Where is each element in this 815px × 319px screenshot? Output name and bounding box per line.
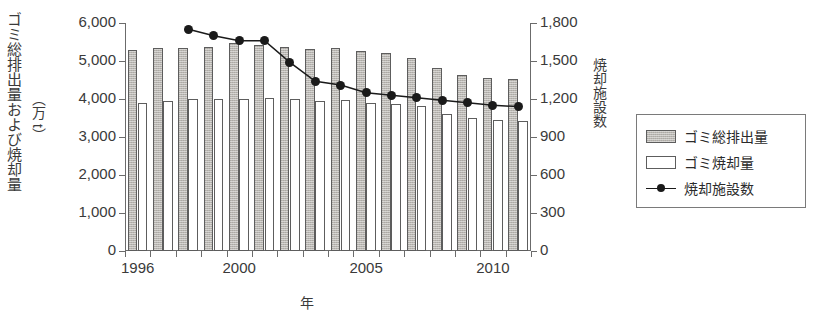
x-axis-tick xyxy=(227,251,228,257)
chart-figure: ゴミ総排出量および焼却量 （万 t） 焼却施設数 年 01,0002,0003,… xyxy=(0,0,815,319)
x-axis-tick xyxy=(480,251,481,257)
line-series-facility-count xyxy=(125,23,531,251)
x-axis-tick xyxy=(303,251,304,257)
x-axis-tick xyxy=(404,251,405,257)
y-axis-left-tick-label: 5,000 xyxy=(78,52,116,67)
x-axis-tick xyxy=(506,251,507,257)
y-axis-right-tick-label: 300 xyxy=(540,204,586,219)
x-axis-tick xyxy=(252,251,253,257)
y-axis-left-tick-label: 0 xyxy=(108,242,116,257)
y-axis-right-title: 焼却施設数 xyxy=(592,58,606,223)
facility-count-marker xyxy=(514,102,523,111)
y-axis-right-tick xyxy=(531,99,537,100)
y-axis-left-tick-label: 1,000 xyxy=(78,204,116,219)
x-axis-tick xyxy=(328,251,329,257)
facility-count-marker xyxy=(311,77,320,86)
y-axis-right-tick-label: 1,200 xyxy=(540,90,586,105)
x-axis-tick xyxy=(150,251,151,257)
y-axis-left-tick-label: 6,000 xyxy=(78,14,116,29)
legend-item: ゴミ総排出量 xyxy=(646,123,796,149)
x-axis-title: 年 xyxy=(300,292,314,312)
facility-count-marker xyxy=(235,36,244,45)
plot-area: 01,0002,0003,0004,0005,0006,000 03006009… xyxy=(125,23,531,251)
y-axis-right-tick xyxy=(531,23,537,24)
x-axis-tick-label: 1996 xyxy=(121,259,154,276)
legend-item-label: 焼却施設数 xyxy=(684,178,754,198)
y-axis-left-tick-label: 2,000 xyxy=(78,166,116,181)
y-axis-right-tick-label: 1,500 xyxy=(540,52,586,67)
legend-item-label: ゴミ総排出量 xyxy=(684,126,768,146)
y-axis-right-tick-label: 1,800 xyxy=(540,14,586,29)
legend-item: ゴミ焼却量 xyxy=(646,149,796,175)
x-axis-tick xyxy=(277,251,278,257)
x-axis-tick xyxy=(430,251,431,257)
y-axis-right-tick-label: 0 xyxy=(540,242,586,257)
legend-item: 焼却施設数 xyxy=(646,175,796,201)
facility-count-marker xyxy=(362,88,371,97)
facility-count-marker xyxy=(438,96,447,105)
y-axis-right-tick xyxy=(531,213,537,214)
line-dot-icon xyxy=(646,182,676,195)
y-axis-right-tick xyxy=(531,175,537,176)
y-axis-right-tick xyxy=(531,137,537,138)
x-axis-tick-label: 2000 xyxy=(223,259,256,276)
x-axis-tick xyxy=(379,251,380,257)
y-axis-right-tick-label: 900 xyxy=(540,128,586,143)
legend-item-label: ゴミ焼却量 xyxy=(684,152,754,172)
y-axis-left-tick-label: 4,000 xyxy=(78,90,116,105)
x-axis-tick xyxy=(201,251,202,257)
x-axis-tick-label: 2010 xyxy=(476,259,509,276)
x-axis-tick xyxy=(531,251,532,257)
white-icon xyxy=(646,156,676,169)
x-axis-tick xyxy=(125,251,126,257)
y-axis-right-tick-label: 600 xyxy=(540,166,586,181)
x-axis-tick xyxy=(353,251,354,257)
facility-count-marker xyxy=(184,25,193,34)
y-axis-left-title: ゴミ総排出量および焼却量 xyxy=(6,12,21,262)
x-axis-tick xyxy=(455,251,456,257)
facility-count-marker xyxy=(336,81,345,90)
legend: ゴミ総排出量ゴミ焼却量焼却施設数 xyxy=(636,114,806,208)
y-axis-left-unit: （万 t） xyxy=(28,92,48,142)
x-axis-tick xyxy=(176,251,177,257)
filled-gray-icon xyxy=(646,130,676,143)
y-axis-left-tick-label: 3,000 xyxy=(78,128,116,143)
x-axis-tick-label: 2005 xyxy=(349,259,382,276)
facility-count-marker xyxy=(387,91,396,100)
y-axis-right-tick xyxy=(531,61,537,62)
